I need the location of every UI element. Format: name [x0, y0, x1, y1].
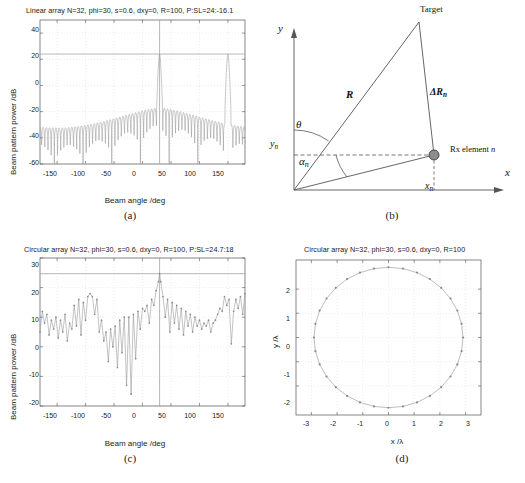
panel-b-y-axis-label: y	[278, 22, 283, 34]
panel-d-caption: (d)	[372, 452, 432, 464]
panel-a-linear-array-beam-pattern: Linear array N=32, phi=30, s=0.6, dxy=0,…	[0, 0, 262, 232]
panel-b-rx-element-text: Rx element	[450, 144, 491, 154]
panel-b-range-label: R	[346, 88, 353, 100]
panel-b-delta-range-subscript: n	[443, 91, 447, 99]
panel-d-plot-area	[262, 236, 525, 483]
panel-b-rx-element-label: Rx element n	[450, 144, 495, 154]
panel-b-alpha-subscript: n	[305, 160, 309, 169]
panel-b-caption: (b)	[362, 209, 422, 221]
panel-b-rx-element-index: n	[491, 144, 495, 154]
panel-b-yn-label: yn	[270, 138, 278, 151]
panel-c-plot-area	[0, 236, 262, 483]
panel-c-circular-array-beam-pattern: Circular array N=32, phi=30, s=0.6, dxy=…	[0, 236, 262, 483]
panel-a-plot-area	[0, 0, 262, 232]
panel-d-circular-array-geometry: Circular array N=32, phi=30, s=0.6, dxy=…	[262, 236, 525, 483]
panel-b-diagram-canvas	[262, 0, 525, 232]
panel-b-xn-subscript: n	[429, 185, 433, 193]
panel-b-x-axis-label: x	[505, 166, 510, 178]
panel-b-xn-label: xn	[425, 180, 433, 193]
panel-b-yn-subscript: n	[274, 143, 278, 151]
panel-b-theta-label: θ	[296, 118, 301, 130]
panel-b-target-label: Target	[420, 4, 443, 14]
panel-a-caption: (a)	[100, 209, 160, 221]
panel-b-delta-range-label: ΔRn	[430, 86, 447, 99]
panel-c-caption: (c)	[100, 452, 160, 464]
panel-b-geometry-diagram: Target R ΔRn θ αn yn xn x y Rx element n…	[262, 0, 525, 232]
panel-b-alpha-label: αn	[299, 155, 309, 169]
panel-b-delta-range-text: ΔR	[430, 86, 443, 97]
